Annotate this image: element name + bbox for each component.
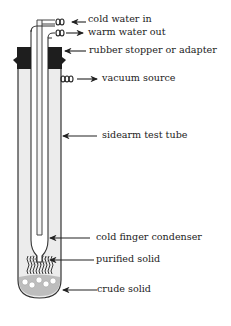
label-warm-water-out: warm water out bbox=[88, 27, 166, 37]
label-cold-water-in: cold water in bbox=[88, 14, 152, 24]
label-rubber-stopper: rubber stopper or adapter bbox=[89, 45, 217, 55]
label-purified-solid: purified solid bbox=[96, 254, 160, 264]
vacuum-sidearm bbox=[61, 76, 73, 82]
label-crude-solid: crude solid bbox=[97, 284, 151, 294]
label-cold-finger-condenser: cold finger condenser bbox=[96, 232, 202, 242]
cold-water-connector bbox=[56, 19, 64, 25]
label-sidearm-test-tube: sidearm test tube bbox=[102, 130, 187, 140]
label-vacuum-source: vacuum source bbox=[102, 73, 176, 83]
warm-water-connector bbox=[56, 30, 64, 36]
